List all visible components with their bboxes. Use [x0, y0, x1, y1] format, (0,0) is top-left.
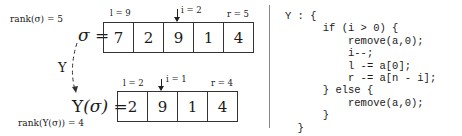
r-label-bottom: r = 4	[211, 78, 233, 88]
code-line: r -= a[n - i];	[285, 72, 436, 84]
array-cell: 7	[104, 23, 134, 52]
code-line: remove(a,0);	[285, 35, 436, 47]
i-label-top: i = 2	[181, 5, 202, 15]
code-line: i--;	[285, 47, 436, 59]
array-cell: 4	[224, 23, 253, 52]
i-pointer-arrow-bottom	[161, 79, 162, 90]
array-cell: 4	[208, 92, 237, 121]
array-cell: 2	[134, 23, 164, 52]
code-line: Υ : {	[285, 10, 436, 22]
array-cell: 1	[194, 23, 224, 52]
array-cell: 9	[148, 92, 178, 121]
code-line: if (i > 0) {	[285, 22, 436, 34]
array-cell: 2	[118, 92, 148, 121]
array-cell: 9	[164, 23, 194, 52]
sigma-array: 7 2 9 1 4	[103, 22, 254, 53]
code-line: }	[285, 109, 436, 121]
rank-upsilon-label: rank(Υ(σ)) = 4	[18, 118, 84, 128]
upsilon-arg: (σ)	[83, 96, 108, 116]
i-label-bottom: i = 1	[166, 74, 187, 84]
l-label-bottom: l = 2	[123, 78, 144, 88]
panel-divider	[269, 5, 270, 128]
upsilon-sigma-array: 2 9 1 4	[117, 91, 238, 122]
array-cell: 1	[178, 92, 208, 121]
code-line: }	[285, 122, 436, 134]
code-line: } else {	[285, 84, 436, 96]
transform-label: Υ	[58, 60, 67, 75]
code-line: l -= a[0];	[285, 60, 436, 72]
i-pointer-arrow-top	[177, 9, 178, 21]
code-block: Υ : { if (i > 0) { remove(a,0); i--; l -…	[285, 10, 436, 134]
r-label-top: r = 5	[227, 9, 249, 19]
rank-sigma-label: rank(σ) = 5	[10, 14, 63, 24]
l-label-top: l = 9	[110, 8, 131, 18]
upsilon-symbol: Υ	[72, 96, 83, 116]
code-line: remove(a,0);	[285, 97, 436, 109]
